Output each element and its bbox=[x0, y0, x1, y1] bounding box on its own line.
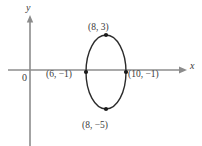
point-marker-bottom-vertex bbox=[104, 107, 108, 111]
point-marker-top-vertex bbox=[104, 33, 108, 37]
ellipse-coordinate-figure: y x 0 (8, 3) (8, −5) (6, −1) (10, −1) bbox=[0, 0, 202, 146]
y-axis-arrowhead-icon bbox=[27, 15, 33, 23]
x-axis-label: x bbox=[190, 61, 194, 71]
x-axis-arrowhead-icon bbox=[179, 67, 187, 74]
y-axis-label: y bbox=[26, 3, 30, 13]
origin-label: 0 bbox=[22, 73, 27, 83]
point-label-bottom-vertex: (8, −5) bbox=[82, 121, 108, 131]
point-label-right-co-vertex: (10, −1) bbox=[128, 70, 159, 80]
point-label-left-co-vertex: (6, −1) bbox=[46, 70, 72, 80]
ellipse-curve bbox=[86, 35, 126, 109]
point-label-top-vertex: (8, 3) bbox=[88, 23, 109, 33]
point-marker-left-co-vertex bbox=[84, 70, 88, 74]
